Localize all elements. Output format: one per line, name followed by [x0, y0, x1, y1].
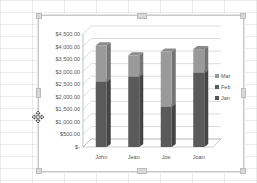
gridline-depth — [83, 126, 91, 134]
bar-jean-feb[interactable] — [128, 77, 139, 147]
legend-label-feb: Feb — [221, 84, 230, 90]
gridline-depth — [83, 64, 91, 72]
bar-segment-side — [107, 42, 111, 81]
bar-segment-side — [172, 49, 176, 107]
gridline-depth — [83, 89, 91, 97]
gridline-depth — [83, 26, 91, 34]
gridline-depth — [83, 51, 91, 59]
move-cursor-icon — [32, 111, 44, 123]
bar-john-feb[interactable] — [96, 82, 107, 147]
y-tick-label: $3,500.00 — [56, 56, 80, 62]
gridline-depth — [83, 101, 91, 109]
legend-swatch-jan — [215, 96, 219, 100]
bar-joe-feb[interactable] — [161, 107, 172, 147]
y-tick-label: $4,000.00 — [56, 44, 80, 50]
x-tick-label: Joe — [162, 154, 171, 160]
gridline-depth — [83, 114, 91, 122]
x-tick-label: John — [95, 154, 107, 160]
legend-label-jan: Jan — [221, 95, 230, 101]
bar-jean-mar[interactable] — [128, 55, 139, 76]
bar-segment-side — [204, 46, 208, 73]
bar-segment-side — [139, 74, 143, 147]
bar-joan-mar[interactable] — [193, 49, 204, 73]
legend-label-mar: Mar — [221, 73, 231, 79]
stacked-column-chart: $-$500.00$1,000.00$1,500.00$2,000.00$2,5… — [39, 16, 243, 171]
y-tick-label: $1,500.00 — [56, 106, 80, 112]
bar-segment-side — [107, 79, 111, 147]
bar-segment-side — [204, 70, 208, 147]
gridline-depth — [83, 39, 91, 47]
bar-joan-feb[interactable] — [193, 73, 204, 147]
y-tick-label: $2,000.00 — [56, 94, 80, 100]
y-tick-label: $2,500.00 — [56, 81, 80, 87]
y-tick-label: $- — [75, 144, 80, 150]
legend-swatch-mar — [215, 74, 219, 78]
y-tick-label: $4,500.00 — [56, 31, 80, 37]
gridline-depth — [83, 76, 91, 84]
y-tick-label: $3,000.00 — [56, 69, 80, 75]
chart-object[interactable]: $-$500.00$1,000.00$1,500.00$2,000.00$2,5… — [38, 15, 244, 172]
legend-swatch-feb — [215, 85, 219, 89]
y-tick-label: $1,000.00 — [56, 119, 80, 125]
bar-segment-side — [139, 52, 143, 76]
bar-segment-side — [172, 104, 176, 147]
y-tick-label: $500.00 — [60, 131, 80, 137]
bar-joe-mar[interactable] — [161, 52, 172, 107]
bar-john-mar[interactable] — [96, 45, 107, 81]
x-tick-label: Jean — [128, 154, 140, 160]
x-tick-label: Joan — [193, 154, 205, 160]
